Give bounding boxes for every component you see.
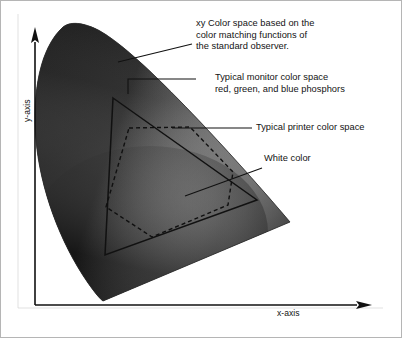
annotation-monitor-color-space: Typical monitor color space red, green, … [215, 72, 345, 95]
annotation-white-color: White color [264, 153, 311, 165]
annotation-xy-color-space: xy Color space based on the color matchi… [196, 18, 314, 53]
chromaticity-diagram-figure: xy Color space based on the color matchi… [0, 0, 402, 338]
annotation-printer-color-space: Typical printer color space [256, 122, 365, 134]
y-axis-arrowhead [31, 27, 39, 43]
y-axis-label: y-axis [22, 100, 32, 122]
x-axis-label: x-axis [277, 308, 299, 318]
